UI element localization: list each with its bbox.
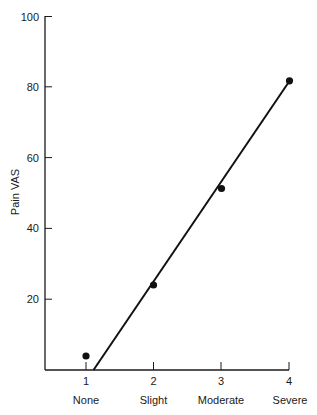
y-tick-label-20: 20 [27, 293, 39, 305]
data-point-moderate [218, 185, 225, 192]
y-tick-label-100: 100 [21, 11, 39, 23]
regression-line [94, 81, 290, 370]
x-category-slight: Slight [140, 394, 168, 406]
data-point-none [82, 352, 89, 359]
data-point-severe [286, 77, 293, 84]
x-tick-label-2: 2 [150, 375, 156, 387]
x-tick-label-4: 4 [286, 375, 292, 387]
chart: 20 40 60 80 100 Pain VAS 1 2 3 4 None Sl… [0, 0, 317, 415]
x-ticks [86, 362, 289, 370]
x-tick-label-3: 3 [218, 375, 224, 387]
x-tick-label-1: 1 [83, 375, 89, 387]
y-axis-title: Pain VAS [9, 169, 21, 215]
x-tick-labels: 1 2 3 4 [83, 375, 292, 387]
y-tick-label-60: 60 [27, 152, 39, 164]
x-category-severe: Severe [273, 394, 308, 406]
x-category-none: None [73, 394, 99, 406]
data-points [82, 77, 293, 359]
y-tick-label-40: 40 [27, 222, 39, 234]
y-ticks [45, 17, 52, 300]
y-tick-label-80: 80 [27, 81, 39, 93]
x-category-labels: None Slight Moderate Severe [73, 394, 308, 406]
y-tick-labels: 20 40 60 80 100 [21, 11, 39, 306]
x-category-moderate: Moderate [198, 394, 244, 406]
data-point-slight [150, 281, 157, 288]
